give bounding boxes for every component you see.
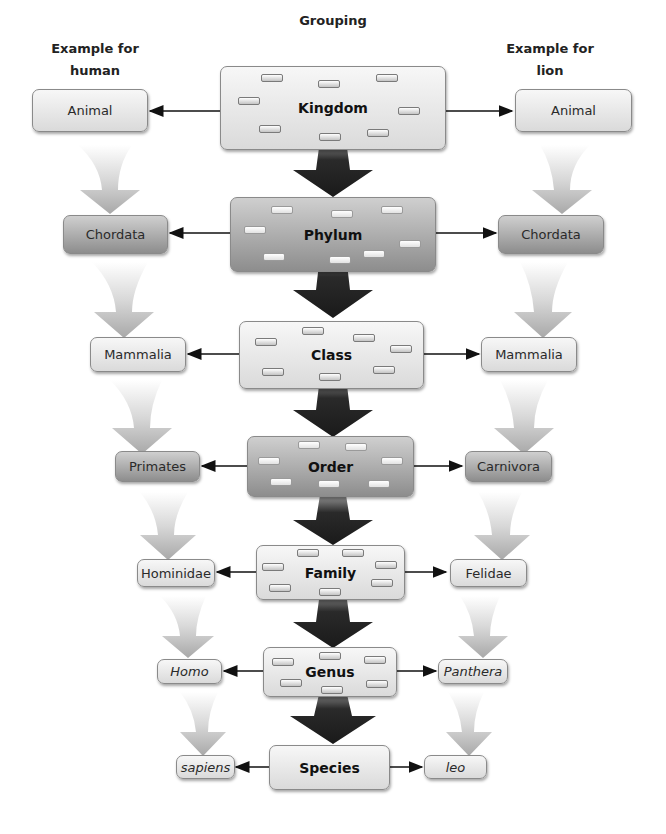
chip-icon xyxy=(319,133,341,141)
chip-icon xyxy=(363,250,385,258)
chip-icon xyxy=(271,206,293,214)
chip-icon xyxy=(381,206,403,214)
chip-icon xyxy=(259,125,281,133)
lion-genus-box: Panthera xyxy=(438,659,508,684)
human-family-box: Hominidae xyxy=(137,559,215,587)
chip-icon xyxy=(376,74,398,82)
lion-class-box: Mammalia xyxy=(481,337,577,372)
chip-icon xyxy=(262,563,284,571)
group-phylum-label: Phylum xyxy=(304,227,363,243)
arrow-down-icon xyxy=(140,492,196,560)
chip-icon xyxy=(399,240,421,248)
human-species-label: sapiens xyxy=(181,760,231,775)
group-family-box: Family xyxy=(256,545,405,600)
chip-icon xyxy=(238,97,260,105)
group-class-box: Class xyxy=(239,321,424,389)
arrow-down-icon xyxy=(293,495,373,545)
lion-phylum-label: Chordata xyxy=(521,227,581,242)
chip-icon xyxy=(398,107,420,115)
lion-species-label: leo xyxy=(446,760,466,775)
arrow-down-icon xyxy=(474,492,530,560)
chip-icon xyxy=(373,366,395,374)
group-species-box: Species xyxy=(269,745,390,790)
human-class-box: Mammalia xyxy=(90,337,186,372)
chip-icon xyxy=(270,478,292,486)
arrow-down-icon xyxy=(160,596,214,658)
lion-order-box: Carnivora xyxy=(465,451,552,482)
group-genus-label: Genus xyxy=(305,664,354,680)
chip-icon xyxy=(368,480,390,488)
lion-kingdom-box: Animal xyxy=(515,89,632,132)
arrow-down-icon xyxy=(290,690,376,744)
arrow-down-icon xyxy=(293,592,373,648)
lion-phylum-box: Chordata xyxy=(498,215,604,254)
chip-icon xyxy=(319,373,341,381)
human-kingdom-box: Animal xyxy=(32,89,148,132)
chip-icon xyxy=(269,584,291,592)
chip-icon xyxy=(297,549,319,557)
arrow-down-icon xyxy=(180,692,226,756)
human-phylum-box: Chordata xyxy=(63,215,168,254)
human-class-label: Mammalia xyxy=(104,347,172,362)
chip-icon xyxy=(318,480,340,488)
chip-icon xyxy=(262,368,284,376)
chip-icon xyxy=(381,457,403,465)
lion-kingdom-label: Animal xyxy=(551,103,596,118)
group-genus-box: Genus xyxy=(263,647,397,697)
chip-icon xyxy=(331,210,353,218)
chip-icon xyxy=(280,679,302,687)
human-family-label: Hominidae xyxy=(141,566,211,581)
arrow-down-icon xyxy=(92,262,154,338)
chip-icon xyxy=(318,80,340,88)
human-kingdom-label: Animal xyxy=(68,103,113,118)
chip-icon xyxy=(329,256,351,264)
chip-icon xyxy=(366,680,388,688)
human-order-box: Primates xyxy=(115,451,200,482)
human-order-label: Primates xyxy=(129,459,186,474)
group-species-label: Species xyxy=(299,760,360,776)
chip-icon xyxy=(244,226,266,234)
human-genus-box: Homo xyxy=(157,659,222,684)
chip-icon xyxy=(321,686,343,694)
chip-icon xyxy=(319,652,341,660)
arrow-down-icon xyxy=(446,692,492,756)
chip-icon xyxy=(364,656,386,664)
chip-icon xyxy=(342,549,364,557)
chip-icon xyxy=(390,345,412,353)
chip-icon xyxy=(375,561,397,569)
chip-icon xyxy=(353,334,375,342)
chip-icon xyxy=(263,253,285,261)
chip-icon xyxy=(371,579,393,587)
chip-icon xyxy=(345,443,367,451)
lion-genus-label: Panthera xyxy=(444,664,503,679)
human-species-box: sapiens xyxy=(176,755,235,779)
group-phylum-box: Phylum xyxy=(230,197,436,272)
group-kingdom-label: Kingdom xyxy=(298,100,368,116)
lion-family-box: Felidae xyxy=(450,559,527,587)
lion-species-box: leo xyxy=(424,755,487,779)
group-class-label: Class xyxy=(311,347,352,363)
chip-icon xyxy=(319,588,341,596)
lion-class-label: Mammalia xyxy=(495,347,563,362)
human-phylum-label: Chordata xyxy=(86,227,146,242)
chip-icon xyxy=(261,74,283,82)
lion-family-label: Felidae xyxy=(465,566,511,581)
chip-icon xyxy=(272,658,294,666)
group-order-label: Order xyxy=(308,459,353,475)
chip-icon xyxy=(258,457,280,465)
arrow-down-icon xyxy=(514,262,572,338)
human-genus-label: Homo xyxy=(170,664,208,679)
chip-icon xyxy=(367,129,389,137)
arrow-down-icon xyxy=(532,145,592,214)
chip-icon xyxy=(298,441,320,449)
group-kingdom-box: Kingdom xyxy=(220,66,446,150)
chip-icon xyxy=(302,327,324,335)
arrow-down-icon xyxy=(78,145,140,214)
arrow-down-icon xyxy=(494,380,554,454)
arrow-down-icon xyxy=(458,596,508,658)
lion-order-label: Carnivora xyxy=(477,459,540,474)
chip-icon xyxy=(255,338,277,346)
group-order-box: Order xyxy=(247,436,414,497)
arrow-down-icon xyxy=(110,380,172,454)
group-family-label: Family xyxy=(305,565,357,581)
